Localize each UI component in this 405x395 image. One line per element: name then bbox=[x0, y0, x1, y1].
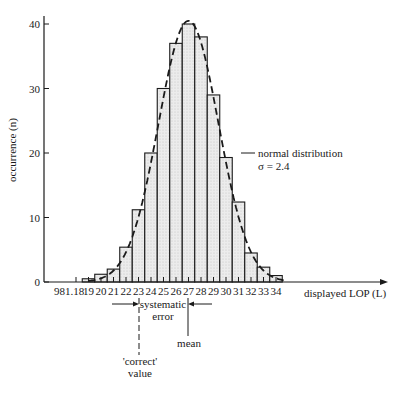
x-tick-label: 22 bbox=[121, 285, 132, 297]
axis-arrow-icon bbox=[380, 279, 388, 285]
correct-value-label-line1: 'correct' bbox=[123, 355, 158, 367]
histogram-chart: 981.1819202122232425262728293031323334 0… bbox=[0, 0, 405, 395]
histogram-bar bbox=[220, 158, 233, 282]
histogram-bar bbox=[195, 37, 208, 282]
x-tick-label: 28 bbox=[196, 285, 208, 297]
histogram-bar bbox=[170, 43, 183, 282]
histogram-bar bbox=[132, 210, 145, 282]
x-tick-label: 33 bbox=[258, 285, 270, 297]
y-tick-label: 30 bbox=[29, 83, 41, 95]
histogram-bar bbox=[232, 202, 245, 282]
x-tick-label: 20 bbox=[96, 285, 108, 297]
x-tick-label: 29 bbox=[208, 285, 220, 297]
x-tick-label: 21 bbox=[108, 285, 119, 297]
x-tick-label: 31 bbox=[233, 285, 244, 297]
systematic-error-line1: systematic bbox=[140, 298, 187, 310]
x-tick-label: 24 bbox=[146, 285, 158, 297]
y-tick-label: 40 bbox=[29, 18, 41, 30]
x-tick-label: 34 bbox=[271, 285, 283, 297]
normal-annotation-sigma: σ = 2.4 bbox=[258, 160, 290, 172]
x-tick-label: 23 bbox=[133, 285, 145, 297]
chart-canvas: 981.1819202122232425262728293031323334 0… bbox=[0, 0, 405, 395]
x-tick-label: 30 bbox=[221, 285, 233, 297]
arrow-right-icon bbox=[133, 302, 139, 307]
y-tick-label: 0 bbox=[35, 276, 41, 288]
arrow-left-icon bbox=[188, 302, 194, 307]
normal-annotation-title: normal distribution bbox=[258, 147, 343, 159]
histogram-bar bbox=[145, 153, 158, 282]
mean-label: mean bbox=[177, 337, 201, 349]
x-axis-label: displayed LOP (L) bbox=[304, 287, 386, 300]
x-tick-label: 981.18 bbox=[54, 285, 85, 297]
y-tick-label: 20 bbox=[29, 147, 41, 159]
y-axis: 010203040 bbox=[29, 16, 49, 288]
x-tick-label: 25 bbox=[158, 285, 170, 297]
y-tick-label: 10 bbox=[29, 212, 41, 224]
y-axis-label: occurrence (n) bbox=[6, 118, 19, 182]
x-tick-label: 26 bbox=[171, 285, 183, 297]
correct-value-label-line2: value bbox=[128, 367, 152, 379]
x-tick-label: 27 bbox=[183, 285, 195, 297]
systematic-error-line2: error bbox=[152, 310, 174, 322]
histogram-bar bbox=[182, 24, 195, 282]
x-tick-label: 19 bbox=[83, 285, 95, 297]
x-tick-label: 32 bbox=[246, 285, 257, 297]
